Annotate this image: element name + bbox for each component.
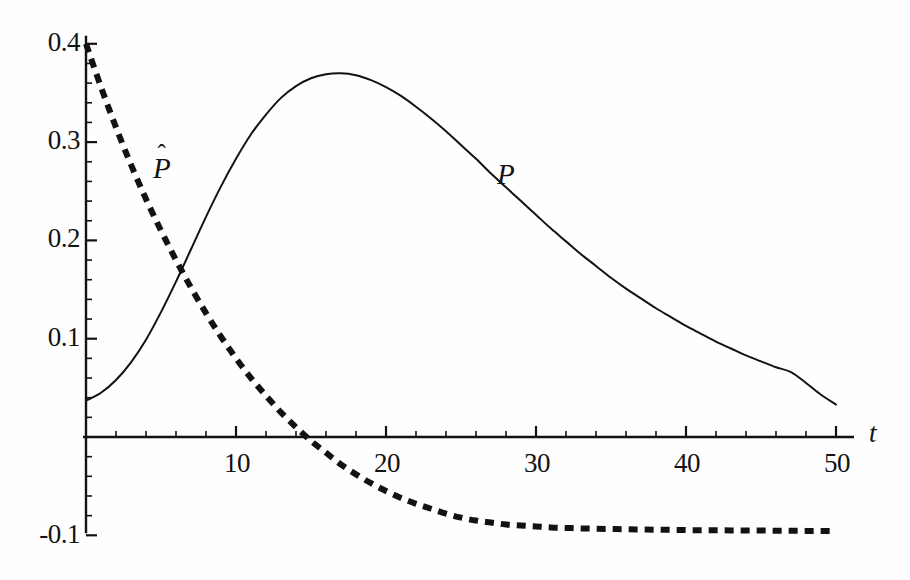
axis-group (83, 36, 854, 536)
chart-figure: 0.4 0.3 0.2 0.1 -0.1 10 20 30 40 50 t ˆ … (0, 0, 910, 580)
y-tick-label-0.2: 0.2 (18, 223, 80, 254)
y-tick-label-0.1: 0.1 (18, 322, 80, 353)
x-tick-label-10: 10 (207, 448, 267, 479)
p-curve (86, 73, 836, 404)
y-tick-label-0.3: 0.3 (18, 125, 80, 156)
phat-curve (86, 44, 836, 531)
phat-curve-label: ˆ P (153, 152, 171, 185)
x-axis-label: t (869, 418, 877, 449)
phat-symbol: ˆ P (153, 154, 171, 183)
plot-canvas (0, 0, 910, 580)
x-tick-label-40: 40 (657, 448, 717, 479)
x-tick-label-30: 30 (507, 448, 567, 479)
y-tick-label-0.4: 0.4 (18, 27, 80, 58)
x-tick-label-50: 50 (807, 448, 867, 479)
hat-accent-icon: ˆ (158, 141, 166, 166)
p-curve-label: P (497, 158, 515, 191)
x-tick-label-20: 20 (357, 448, 417, 479)
y-tick-label-minus-0.1: -0.1 (6, 519, 80, 550)
